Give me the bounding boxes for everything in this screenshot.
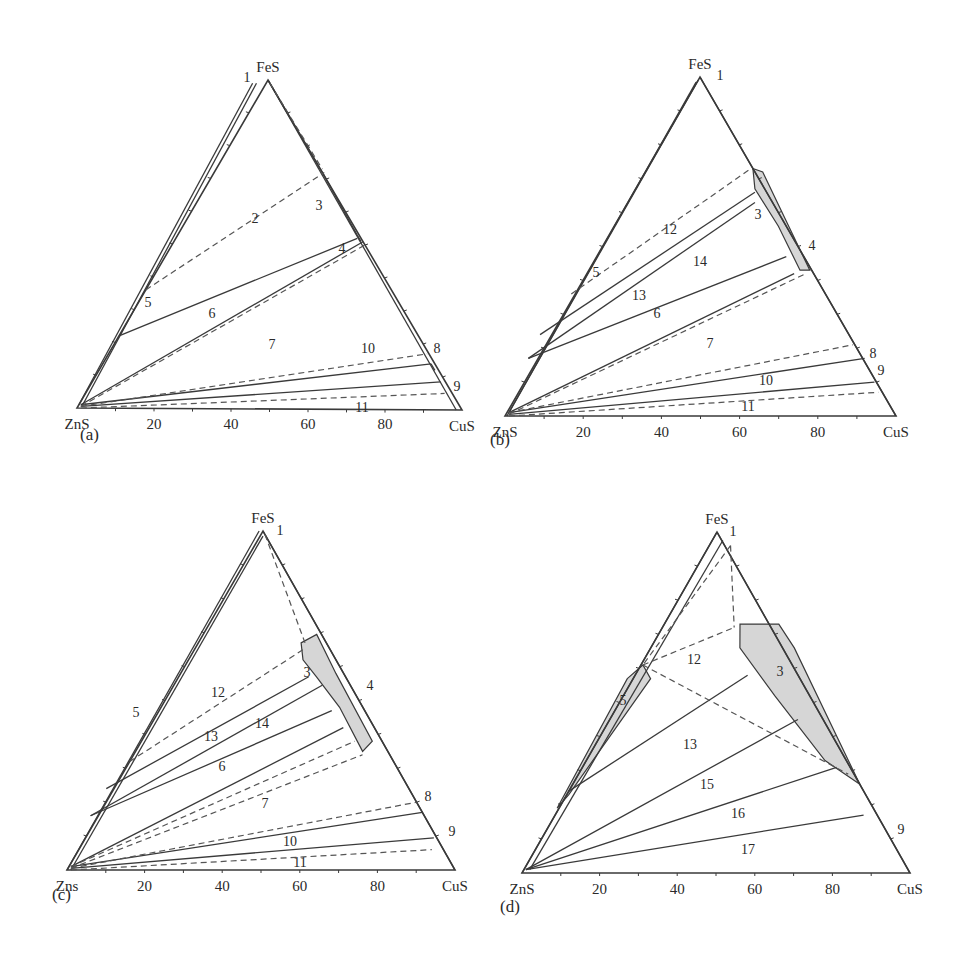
region-number-label: 5 [133,705,140,720]
triangle-outline [505,77,896,416]
axis-tick-label: 40 [224,416,239,432]
dashed-tie-line [71,755,363,869]
axis-tick [365,244,368,245]
vertex-label-left: Zns [56,878,79,894]
triangle-outline [77,80,462,410]
panel-c-ternary-diagram: (c) 20406080ZnsCuSFeS134125141367891011 [52,510,468,904]
region-number-label: 5 [145,295,152,310]
dashed-tie-line [270,83,322,169]
tie-line [268,80,456,410]
vertex-label-left: ZnS [64,416,89,432]
dashed-tie-line [509,345,853,413]
region-number-label: 6 [219,759,226,774]
region-number-label: 1 [717,68,724,83]
region-number-label: 2 [252,211,259,226]
region-number-label: 10 [283,834,297,849]
region-number-label: 17 [741,842,755,857]
region-number-label: 12 [663,222,677,237]
phase-field-region [301,634,372,751]
tie-line [322,172,357,235]
axis-tick-label: 40 [654,424,669,440]
axis-tick [404,310,407,311]
triangle-outline [522,532,910,873]
tie-line [507,82,696,416]
region-number-label: 7 [269,337,276,352]
region-number-label: 3 [755,207,762,222]
region-number-label: 10 [361,341,375,356]
region-number-label: 1 [730,524,737,539]
vertex-label-top: FeS [256,59,279,75]
dashed-tie-line [643,546,731,665]
axis-tick-label: 40 [215,878,230,894]
axis-tick-label: 20 [576,424,591,440]
ternary-figure: (a) 20406080ZnSCuSFeS1234567108911 (b) 2… [0,0,976,965]
axis-tick [423,343,426,344]
region-number-label: 12 [211,685,225,700]
region-number-label: 7 [262,796,269,811]
axis-tick [189,210,192,211]
axis-tick [384,277,387,278]
axis-tick-label: 80 [810,424,825,440]
axis-tick [227,145,230,146]
region-number-label: 3 [316,198,323,213]
vertex-label-left: ZnS [509,881,534,897]
region-number-label: 11 [355,400,368,415]
region-number-label: 7 [707,336,714,351]
panel-label: (d) [500,897,520,916]
axis-tick-label: 60 [747,881,762,897]
region-number-label: 6 [654,306,661,321]
vertex-label-right: CuS [883,424,909,440]
axis-tick-label: 80 [825,881,840,897]
dashed-tie-line [71,802,417,868]
tie-line [71,838,434,869]
region-number-label: 8 [425,789,432,804]
region-number-label: 3 [304,665,311,680]
region-number-label: 4 [809,238,816,253]
axis-tick [561,313,564,314]
axis-tick [246,112,249,113]
axis-tick-label: 60 [301,416,316,432]
tie-line [509,382,875,414]
region-number-label: 3 [777,664,784,679]
region-number-label: 5 [593,265,600,280]
tie-line [509,274,794,413]
region-number-label: 15 [700,777,714,792]
region-number-label: 12 [687,652,701,667]
axis-tick [443,376,446,377]
dashed-tie-line [81,354,427,406]
vertex-label-right: CuS [897,881,923,897]
region-number-label: 11 [741,399,754,414]
triangle-outline [67,531,455,870]
dashed-tie-line [265,534,305,642]
dashed-tie-line [81,245,365,406]
region-number-label: 8 [870,346,877,361]
tie-line [81,382,441,406]
tie-line [528,202,755,358]
region-number-label: 14 [693,254,707,269]
tie-line [509,358,865,412]
axis-tick [580,279,583,280]
region-number-label: 10 [759,373,773,388]
region-number-label: 13 [204,729,218,744]
region-number-label: 14 [255,716,269,731]
region-number-label: 4 [367,678,374,693]
axis-tick [208,177,211,178]
panel-d-ternary-diagram: (d) 20406080ZnSCuSFeS11235131516179 [500,511,923,916]
axis-tick-label: 40 [670,881,685,897]
vertex-label-right: CuS [449,418,475,434]
axis-tick-label: 60 [732,424,747,440]
vertex-label-top: FeS [251,510,274,526]
region-number-label: 13 [683,737,697,752]
region-number-label: 16 [731,806,745,821]
tie-line [71,536,263,870]
tie-line [79,83,253,405]
vertex-label-top: FeS [705,511,728,527]
axis-tick-label: 80 [370,878,385,894]
axis-tick-label: 20 [137,878,152,894]
tie-line [700,77,896,416]
region-number-label: 9 [449,824,456,839]
axis-tick-label: 20 [147,416,162,432]
region-number-label: 9 [454,379,461,394]
axis-tick-label: 60 [292,878,307,894]
vertex-label-left: ZnS [492,424,517,440]
